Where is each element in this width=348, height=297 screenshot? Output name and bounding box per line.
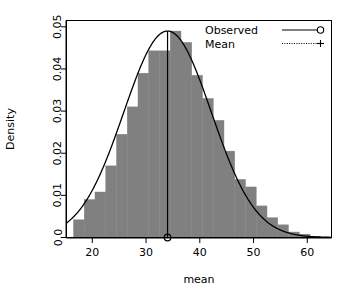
legend-label: Mean [205, 38, 235, 51]
histogram-bar [202, 98, 213, 237]
histogram-bar [95, 192, 106, 238]
y-axis-label: Density [4, 108, 17, 150]
y-axis-tick-label: 0.0 [52, 229, 65, 247]
x-axis-label: mean [183, 273, 214, 286]
legend-label: Observed [205, 24, 258, 37]
histogram-bar [73, 220, 84, 238]
histogram-bar [116, 134, 127, 237]
histogram-bar [138, 73, 149, 237]
x-axis-tick-label: 40 [193, 246, 207, 259]
histogram-bar [192, 75, 203, 237]
y-axis-tick-label: 0.04 [52, 57, 65, 82]
histogram-bar [235, 179, 246, 237]
histogram-bar [224, 151, 235, 237]
density-histogram-chart: 2030405060 0.00.010.020.030.040.05 mean … [0, 0, 348, 297]
histogram-bar [181, 42, 192, 237]
histogram-bar [106, 166, 117, 238]
x-axis-tick-label: 20 [85, 246, 99, 259]
y-axis-tick-label: 0.03 [52, 99, 65, 124]
x-axis-tick-label: 60 [300, 246, 314, 259]
y-axis-tick-label: 0.01 [52, 183, 65, 208]
x-axis-tick-label: 50 [247, 246, 261, 259]
chart-canvas: 2030405060 0.00.010.020.030.040.05 mean … [0, 0, 348, 297]
histogram-bar [127, 107, 138, 238]
histogram-bar [246, 187, 257, 238]
x-axis-tick-label: 30 [139, 246, 153, 259]
histogram-bar [149, 51, 160, 238]
y-axis-tick-label: 0.02 [52, 141, 65, 166]
histogram-bar [170, 31, 181, 237]
y-axis-tick-label: 0.05 [52, 15, 65, 40]
histogram-bar [84, 200, 95, 238]
histogram-bar [159, 51, 170, 238]
histogram-bar [256, 206, 267, 238]
histogram-bar [213, 120, 224, 237]
